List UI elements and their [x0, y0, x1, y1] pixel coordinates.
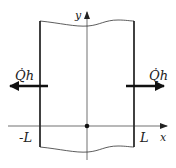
plane-wall-diagram: y x -L L Q̇h Q̇h	[0, 0, 176, 168]
right-heat-flux-label: Q̇h	[149, 68, 168, 83]
left-heat-flux-label: Q̇h	[15, 68, 34, 83]
left-bound-label: -L	[19, 130, 32, 145]
x-axis-label: x	[160, 131, 167, 144]
y-axis-label: y	[74, 9, 82, 22]
origin-marker	[85, 124, 90, 129]
right-bound-label: L	[139, 130, 149, 145]
